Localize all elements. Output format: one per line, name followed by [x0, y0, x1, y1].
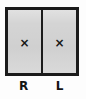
cell-r[interactable]: ×: [8, 10, 42, 73]
x-mark-icon: ×: [19, 37, 29, 49]
diagram-root: × × R L: [0, 0, 86, 99]
cell-l[interactable]: ×: [42, 10, 76, 73]
x-mark-icon: ×: [54, 37, 64, 49]
selection-box: × ×: [5, 7, 79, 76]
cell-labels: R L: [5, 79, 79, 95]
cell-label-r: R: [5, 79, 42, 95]
cell-label-l: L: [41, 79, 78, 95]
